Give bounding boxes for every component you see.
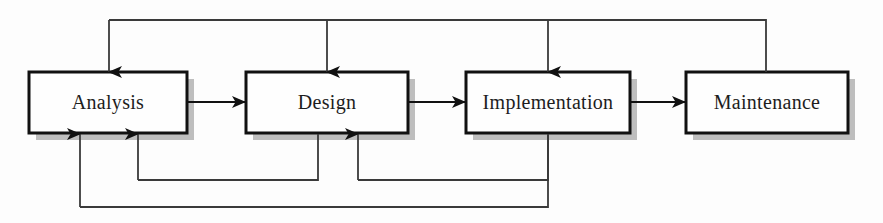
diagram-canvas — [0, 0, 883, 223]
bottom-feedback-path-implementation-to-analysis-feedback — [80, 134, 548, 207]
stage-box-implementation[interactable] — [466, 72, 630, 133]
bottom-feedback-path-design-to-analysis-feedback — [138, 134, 318, 180]
waterfall-model-diagram: AnalysisDesignImplementationMaintenance — [0, 0, 883, 223]
stage-box-design[interactable] — [246, 72, 408, 133]
top-feedback-bus — [109, 20, 766, 72]
stage-box-maintenance[interactable] — [686, 72, 848, 133]
bottom-feedback-path-implementation-to-design-feedback — [358, 134, 548, 180]
top-feedback-layer — [109, 20, 766, 72]
stage-box-analysis[interactable] — [29, 72, 187, 133]
bottom-feedback-layer — [80, 134, 548, 207]
